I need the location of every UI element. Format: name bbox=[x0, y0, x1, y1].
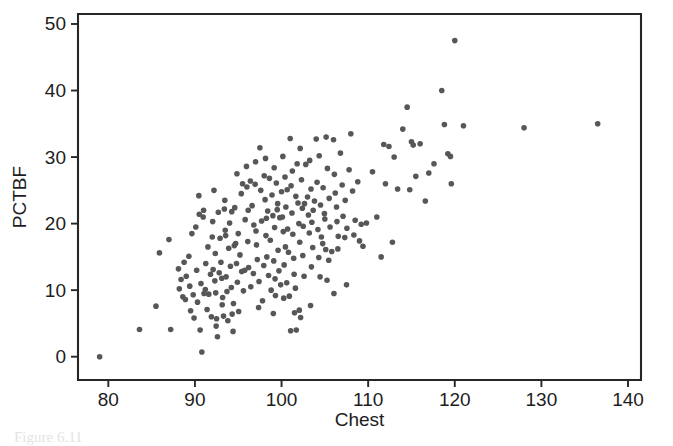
data-point bbox=[188, 308, 194, 314]
data-point bbox=[245, 208, 251, 214]
data-point bbox=[181, 259, 187, 265]
x-tick-label: 100 bbox=[266, 389, 298, 410]
data-point bbox=[223, 233, 229, 239]
x-axis-title: Chest bbox=[335, 409, 385, 430]
data-point bbox=[245, 239, 251, 245]
data-point bbox=[281, 262, 287, 268]
data-point bbox=[381, 142, 387, 148]
data-point bbox=[183, 297, 189, 303]
data-point bbox=[291, 271, 297, 277]
data-point bbox=[223, 274, 229, 280]
y-tick-label: 40 bbox=[45, 80, 66, 101]
data-point bbox=[317, 274, 323, 280]
data-point bbox=[157, 250, 163, 256]
data-point bbox=[200, 214, 206, 220]
data-point bbox=[256, 279, 262, 285]
data-point bbox=[248, 284, 254, 290]
data-point bbox=[461, 123, 467, 129]
data-point bbox=[177, 286, 183, 292]
data-point bbox=[339, 182, 345, 188]
data-point bbox=[334, 219, 340, 225]
data-point bbox=[342, 235, 348, 241]
data-point bbox=[183, 273, 189, 279]
data-point bbox=[297, 146, 303, 152]
data-point bbox=[211, 188, 217, 194]
data-point bbox=[153, 303, 159, 309]
data-point bbox=[319, 234, 325, 240]
data-point bbox=[331, 137, 337, 143]
data-point bbox=[272, 225, 278, 231]
data-point bbox=[213, 290, 219, 296]
data-point bbox=[210, 267, 216, 273]
data-point bbox=[326, 257, 332, 263]
data-point bbox=[271, 165, 277, 171]
data-point bbox=[194, 267, 200, 273]
data-point bbox=[217, 235, 223, 241]
data-point bbox=[193, 224, 199, 230]
data-point bbox=[242, 267, 248, 273]
data-point bbox=[166, 237, 172, 243]
data-point bbox=[212, 251, 218, 257]
data-point bbox=[264, 215, 270, 221]
data-point bbox=[287, 293, 293, 299]
data-point bbox=[297, 307, 303, 313]
data-point bbox=[209, 234, 215, 240]
data-point bbox=[235, 231, 241, 237]
data-point bbox=[249, 203, 255, 209]
data-point bbox=[229, 285, 235, 291]
data-point bbox=[198, 281, 204, 287]
data-point bbox=[222, 198, 228, 204]
data-point bbox=[386, 144, 392, 150]
data-point bbox=[449, 181, 455, 187]
data-point bbox=[308, 186, 314, 192]
data-point bbox=[205, 244, 211, 250]
data-point bbox=[251, 222, 257, 228]
data-point bbox=[290, 231, 296, 237]
data-point bbox=[314, 180, 320, 186]
data-point bbox=[320, 241, 326, 247]
data-point bbox=[209, 314, 215, 320]
data-point bbox=[273, 293, 279, 299]
data-point bbox=[297, 239, 303, 245]
data-point bbox=[260, 298, 266, 304]
data-point bbox=[254, 242, 260, 248]
data-point bbox=[226, 245, 232, 251]
data-point bbox=[212, 278, 218, 284]
data-point bbox=[300, 223, 306, 229]
data-point bbox=[213, 323, 219, 329]
data-point bbox=[210, 219, 216, 225]
data-point bbox=[197, 327, 203, 333]
data-point bbox=[266, 273, 272, 279]
data-point bbox=[248, 178, 254, 184]
data-point bbox=[196, 193, 202, 199]
data-point bbox=[290, 168, 296, 174]
data-point bbox=[348, 131, 354, 137]
data-point bbox=[327, 224, 333, 230]
data-point bbox=[231, 301, 237, 307]
data-point bbox=[374, 214, 380, 220]
data-point bbox=[595, 121, 601, 127]
data-point bbox=[203, 261, 209, 267]
data-point bbox=[222, 206, 228, 212]
data-point bbox=[186, 253, 192, 259]
data-point bbox=[300, 253, 306, 259]
data-point bbox=[309, 219, 315, 225]
data-point bbox=[340, 214, 346, 220]
data-point bbox=[251, 271, 257, 277]
data-point bbox=[322, 216, 328, 222]
data-point bbox=[241, 288, 247, 294]
data-point bbox=[295, 200, 301, 206]
data-point bbox=[279, 189, 285, 195]
data-point bbox=[344, 282, 350, 288]
data-point bbox=[312, 198, 318, 204]
data-point bbox=[442, 122, 448, 128]
data-point bbox=[216, 210, 222, 216]
data-point bbox=[344, 225, 350, 231]
data-point bbox=[306, 212, 312, 218]
data-point bbox=[262, 197, 268, 203]
data-point bbox=[244, 184, 250, 190]
data-point bbox=[351, 232, 357, 238]
data-point bbox=[258, 188, 264, 194]
data-point bbox=[322, 211, 328, 217]
data-point bbox=[271, 311, 277, 317]
